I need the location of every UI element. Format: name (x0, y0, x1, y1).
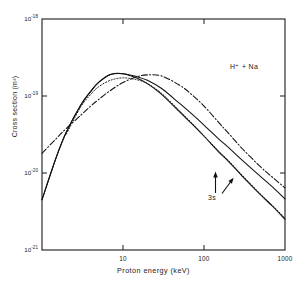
reaction-label: H⁺ + Na (230, 63, 258, 71)
x-tick-label-1: 100 (189, 255, 219, 262)
x-tick-label-2: 1000 (270, 255, 300, 262)
plot-frame (42, 19, 285, 250)
annotation-arrows (213, 172, 233, 194)
series-solid-curve-2 (42, 73, 285, 199)
data-series (42, 73, 285, 219)
y-axis-title: Cross section (m²) (11, 62, 18, 152)
figure: Cross section (m²) Proton energy (keV) 1… (0, 0, 307, 291)
x-tick-label-0: 10 (108, 255, 138, 262)
chart-canvas (0, 0, 307, 291)
y-tick-label-2: 10-20 (12, 169, 38, 176)
y-tick-label-0: 10-18 (12, 15, 38, 22)
axis-ticks (42, 19, 285, 250)
series-dash-dot-curve (42, 75, 285, 188)
x-axis-title: Proton energy (keV) (0, 266, 307, 275)
y-tick-label-3: 10-21 (12, 246, 38, 253)
state-label: 3s (208, 194, 216, 201)
y-tick-label-1: 10-19 (12, 92, 38, 99)
